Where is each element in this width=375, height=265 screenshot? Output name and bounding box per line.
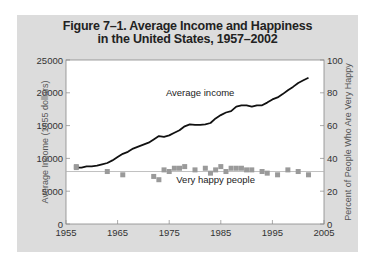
chart-canvas: 1955196519751985199520050500010000150002… <box>0 0 375 265</box>
y2-tick-label: 100 <box>327 55 343 66</box>
happy-marker <box>260 169 265 174</box>
x-tick-label: 1975 <box>159 227 180 238</box>
happy-marker <box>265 171 270 176</box>
y2-tick-label: 0 <box>327 219 332 230</box>
happy-marker <box>213 167 218 172</box>
happy-marker <box>162 167 167 172</box>
happy-marker <box>285 167 290 172</box>
y2-tick-label: 40 <box>327 153 338 164</box>
y-tick-label: 0 <box>58 219 63 230</box>
y2-tick-label: 20 <box>327 186 338 197</box>
y2-axis-label: Percent of People Who Are Very Happy <box>343 63 353 221</box>
plot-area <box>66 60 324 224</box>
happy-marker <box>223 169 228 174</box>
happy-marker <box>120 172 125 177</box>
happy-marker <box>172 166 177 171</box>
happy-marker <box>239 166 244 171</box>
x-tick-label: 1965 <box>107 227 128 238</box>
y-axis-label: Average Income (1955 dollars) <box>40 81 50 204</box>
happy-marker <box>182 164 187 169</box>
happy-marker-overlap <box>74 165 79 170</box>
happy-marker <box>249 167 254 172</box>
y2-tick-label: 60 <box>327 120 338 131</box>
happy-marker <box>193 167 198 172</box>
x-tick-label: 1995 <box>262 227 283 238</box>
income-series-label: Average income <box>166 87 234 98</box>
happy-marker <box>167 169 172 174</box>
happy-marker <box>296 169 301 174</box>
happy-marker <box>203 166 208 171</box>
happy-marker <box>177 166 182 171</box>
happy-marker <box>306 172 311 177</box>
happy-marker <box>234 166 239 171</box>
x-tick-label: 1985 <box>210 227 231 238</box>
happy-marker <box>244 167 249 172</box>
happy-marker <box>156 177 161 182</box>
y-tick-label: 25000 <box>37 55 63 66</box>
happy-marker <box>229 166 234 171</box>
happy-marker <box>105 169 110 174</box>
y2-tick-label: 80 <box>327 87 338 98</box>
happy-marker <box>151 174 156 179</box>
happy-marker <box>275 172 280 177</box>
happy-marker <box>218 164 223 169</box>
happy-series-label: Very happy people <box>176 174 255 185</box>
